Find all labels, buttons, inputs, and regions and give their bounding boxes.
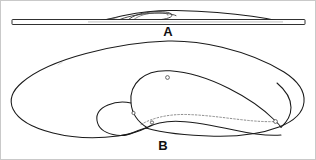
figure-root: A B [0, 0, 316, 160]
eyelet-upper [166, 76, 170, 80]
figure-drawing-canvas: A B [0, 0, 316, 160]
view-label-a: A [163, 24, 173, 39]
view-label-b: B [158, 138, 167, 153]
eyelet-mid [150, 121, 153, 124]
ground-base-bar-shading [88, 21, 283, 23]
eyelet-lower-left [132, 111, 135, 114]
eyelet-heel [274, 120, 278, 124]
